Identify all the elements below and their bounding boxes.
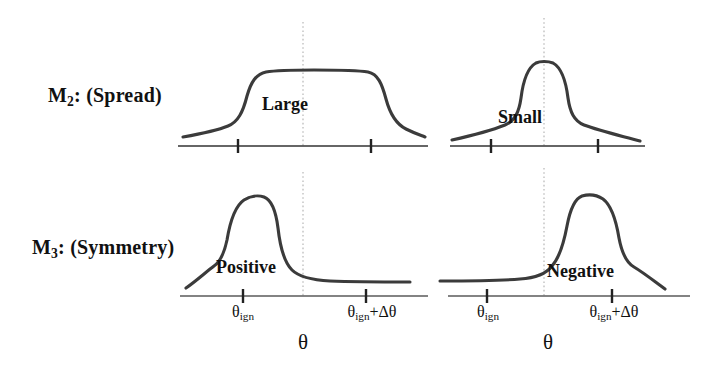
panel-bottom-right xyxy=(440,195,690,303)
theta-subscript: ign xyxy=(597,310,611,322)
panel-bottom-left xyxy=(180,196,428,303)
theta-symbol: θ xyxy=(477,303,485,320)
curve-annotation-small: Small xyxy=(498,107,542,128)
theta-subscript: ign xyxy=(355,310,369,322)
tick-label-bottom-left-theta-ign: θign xyxy=(232,303,254,322)
curve-annotation-large: Large xyxy=(262,94,308,115)
tick-label-bottom-left-theta-ign-delta: θign+Δθ xyxy=(348,303,397,322)
curve-annotation-negative: Negative xyxy=(547,261,614,282)
axis-label-bottom-left-theta: θ xyxy=(298,330,308,355)
tick-label-bottom-right-theta-ign-delta: θign+Δθ xyxy=(590,303,639,322)
delta-theta-symbol: +Δθ xyxy=(611,303,638,320)
figure-canvas: M2: (Spread) M3: (Symmetry) xyxy=(0,0,703,373)
theta-symbol: θ xyxy=(232,303,240,320)
theta-subscript: ign xyxy=(240,310,254,322)
curve-top-right xyxy=(452,62,640,142)
delta-theta-symbol: +Δθ xyxy=(369,303,396,320)
curve-annotation-positive: Positive xyxy=(216,257,276,278)
theta-symbol: θ xyxy=(348,303,356,320)
tick-label-bottom-right-theta-ign: θign xyxy=(477,303,499,322)
axis-label-bottom-right-theta: θ xyxy=(543,330,553,355)
panel-top-right xyxy=(450,62,645,154)
theta-symbol: θ xyxy=(590,303,598,320)
theta-subscript: ign xyxy=(485,310,499,322)
